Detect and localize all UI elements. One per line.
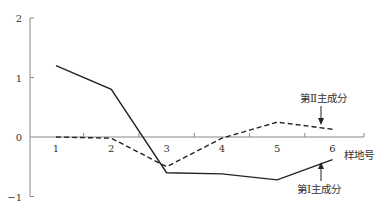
series-line-2: [56, 122, 333, 167]
x-tick-label: 1: [53, 143, 59, 154]
x-tick-label: 4: [219, 143, 225, 154]
x-tick-label: 6: [329, 143, 335, 154]
series-line-1: [56, 66, 333, 180]
annotations: 第Ⅱ主成分第Ⅰ主成分: [297, 92, 348, 195]
y-tick-label: 1: [16, 73, 22, 84]
annotation-component-1: 第Ⅰ主成分: [297, 183, 342, 195]
series-lines: [56, 66, 333, 180]
y-tick-label: 0: [16, 132, 22, 143]
x-tick-label: 5: [274, 143, 280, 154]
arrow-head-icon: [318, 118, 324, 125]
y-tick-label: −1: [7, 192, 22, 203]
x-tick-label: 3: [163, 143, 169, 154]
annotation-component-2: 第Ⅱ主成分: [300, 92, 348, 104]
y-tick-label: 2: [16, 13, 22, 24]
x-axis-label: 样地号: [344, 149, 374, 161]
axes: 210−1123456样地号: [7, 13, 374, 203]
x-tick-label: 2: [108, 143, 114, 154]
principal-component-chart: 210−1123456样地号 第Ⅱ主成分第Ⅰ主成分: [0, 0, 385, 214]
